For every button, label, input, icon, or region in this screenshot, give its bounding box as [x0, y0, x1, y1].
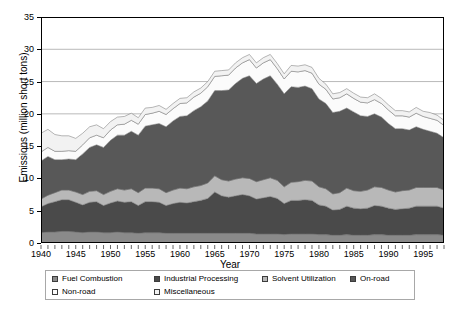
x-axis-tick-label: 1940 — [31, 250, 51, 259]
x-axis-tick-label: 1980 — [309, 250, 329, 259]
legend-item-non-road[interactable]: Non-road — [52, 288, 95, 296]
plot-area — [41, 17, 444, 243]
stacked-area-plot — [41, 17, 444, 243]
legend-swatch — [154, 276, 160, 282]
x-axis-tick-label: 1975 — [274, 250, 294, 259]
legend-label: Fuel Combustion — [62, 275, 122, 283]
legend-swatch — [52, 276, 58, 282]
legend-item-on-road[interactable]: On-road — [350, 275, 389, 283]
x-axis-tick-marks — [0, 245, 460, 250]
legend-swatch — [350, 276, 356, 282]
legend-label: Non-road — [62, 288, 95, 296]
x-axis-tick-label: 1990 — [378, 250, 398, 259]
legend-swatch — [262, 276, 268, 282]
legend: Fuel CombustionIndustrial ProcessingSolv… — [45, 270, 415, 300]
legend-label: Miscellaneous — [164, 288, 215, 296]
x-axis-tick-label: 1955 — [135, 250, 155, 259]
y-axis-tick-mark — [37, 243, 41, 244]
chart-figure: 05101520253035 Emissions (million short … — [0, 0, 460, 314]
legend-item-solvent-utilization[interactable]: Solvent Utilization — [262, 275, 336, 283]
x-axis-tick-label: 1985 — [344, 250, 364, 259]
x-axis-tick-label: 1970 — [239, 250, 259, 259]
x-axis-tick-label: 1950 — [100, 250, 120, 259]
x-axis-title: Year — [0, 259, 460, 270]
x-axis-tick-label: 1960 — [170, 250, 190, 259]
legend-item-miscellaneous[interactable]: Miscellaneous — [154, 288, 215, 296]
x-axis-tick-label: 1995 — [413, 250, 433, 259]
legend-swatch — [52, 289, 58, 295]
legend-label: On-road — [360, 275, 389, 283]
legend-label: Solvent Utilization — [272, 275, 336, 283]
x-axis-tick-label: 1945 — [66, 250, 86, 259]
legend-label: Industrial Processing — [164, 275, 238, 283]
x-axis-tick-label: 1965 — [205, 250, 225, 259]
legend-swatch — [154, 289, 160, 295]
y-axis-title: Emissions (million short tons) — [18, 3, 29, 233]
x-axis: 1940194519501955196019651970197519801985… — [0, 246, 460, 260]
y-axis-tick-label: 5 — [29, 206, 34, 215]
legend-item-fuel-combustion[interactable]: Fuel Combustion — [52, 275, 122, 283]
legend-item-industrial-processing[interactable]: Industrial Processing — [154, 275, 238, 283]
